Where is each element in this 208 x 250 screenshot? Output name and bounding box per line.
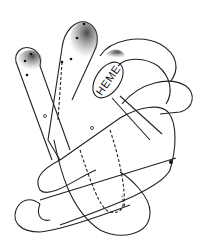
heme-group: HEME [87,50,130,104]
diagram-svg: HEME [0,0,208,250]
loop-bottom [38,130,150,235]
protein-fold-diagram: HEME [0,0,208,250]
